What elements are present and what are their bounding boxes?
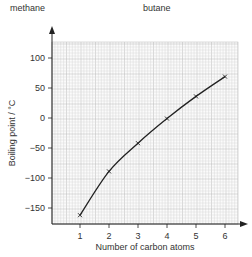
y-axis-label: Boiling point / °C: [7, 99, 17, 166]
y-tick-label: 100: [30, 53, 45, 63]
boiling-point-chart: 100500−50−100−150 123456 Number of carbo…: [0, 0, 252, 257]
chart-grid: [52, 42, 238, 224]
x-tick-label: 5: [193, 231, 198, 241]
y-tick-label: 50: [35, 83, 45, 93]
y-tick-label: −150: [25, 203, 45, 213]
x-axis-label: Number of carbon atoms: [95, 242, 195, 252]
y-axis-ticks: 100500−50−100−150: [25, 53, 52, 213]
x-tick-label: 6: [222, 231, 227, 241]
x-tick-label: 1: [77, 231, 82, 241]
x-tick-label: 2: [106, 231, 111, 241]
x-tick-label: 4: [164, 231, 169, 241]
y-tick-label: −100: [25, 173, 45, 183]
x-tick-label: 3: [135, 231, 140, 241]
x-axis-ticks: 123456: [77, 224, 227, 241]
y-tick-label: 0: [40, 113, 45, 123]
y-tick-label: −50: [30, 143, 45, 153]
